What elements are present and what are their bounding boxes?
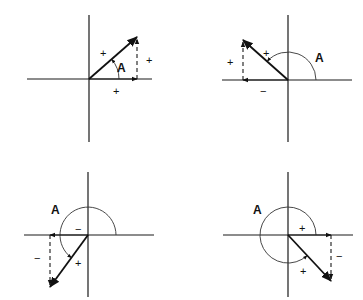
vector-sign-label: + <box>263 47 269 59</box>
vertical-sign-label: + <box>146 54 152 66</box>
vector-sign-label: + <box>300 265 306 277</box>
quadrant-4-diagram: + A − + <box>223 172 353 297</box>
horizontal-sign-label: + <box>299 222 305 234</box>
vector-arrow <box>50 235 88 287</box>
quadrant-1-diagram: + A + + <box>27 15 152 142</box>
horizontal-sign-label: − <box>260 85 266 97</box>
angle-a-label: A <box>117 61 126 75</box>
vector-sign-label: + <box>75 257 81 269</box>
angle-a-label: A <box>51 203 60 217</box>
angle-a-label: A <box>315 51 324 65</box>
vector-arrow <box>89 37 137 79</box>
vector-arrow <box>243 40 288 80</box>
horizontal-sign-label: − <box>75 223 81 235</box>
vertical-sign-label: − <box>336 250 342 262</box>
vector-arrow <box>288 235 331 281</box>
vertical-sign-label: + <box>227 56 233 68</box>
diagram-canvas: + A + + + A + − + A − − <box>0 0 363 300</box>
angle-a-label: A <box>253 203 262 217</box>
horizontal-sign-label: + <box>113 85 119 97</box>
vector-sign-label: + <box>100 47 106 59</box>
vertical-sign-label: − <box>34 252 40 264</box>
quadrant-3-diagram: + A − − <box>24 172 154 297</box>
quadrant-diagram-figure: + A + + + A + − + A − − <box>0 0 363 300</box>
angle-arc <box>267 52 316 80</box>
quadrant-2-diagram: + A + − <box>222 15 352 142</box>
